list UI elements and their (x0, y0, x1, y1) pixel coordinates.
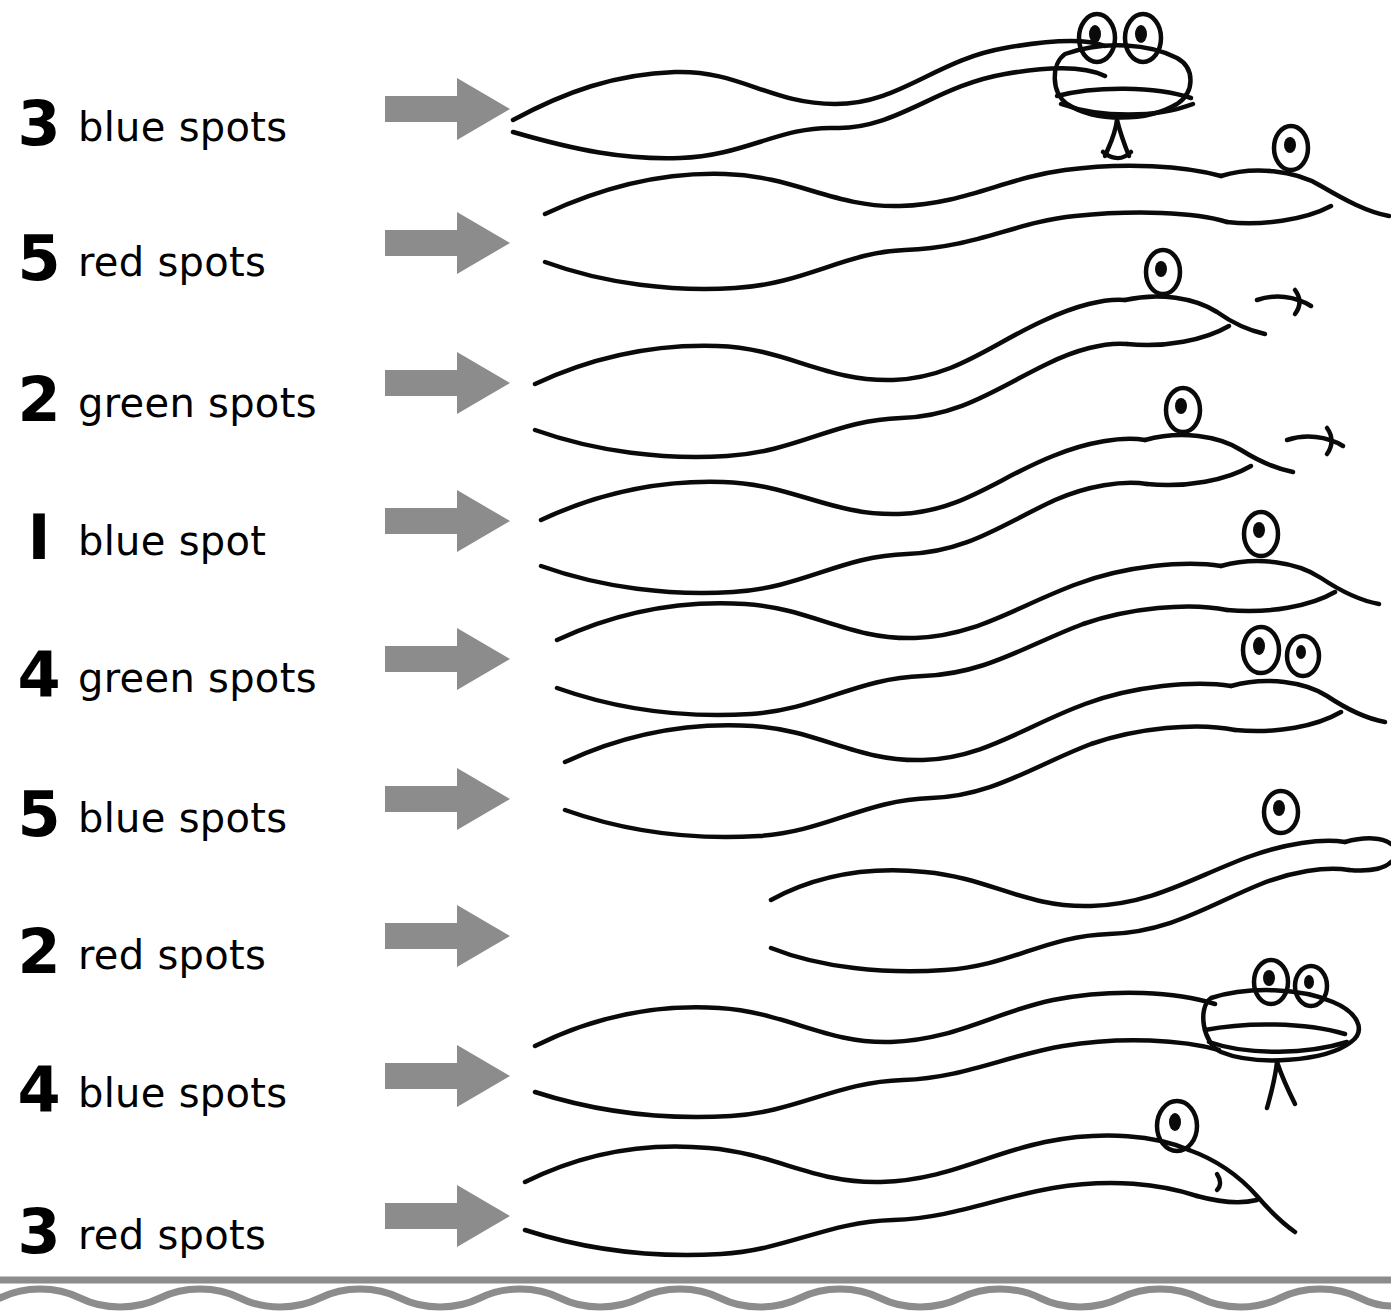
spot-color-label: red spots (78, 239, 266, 285)
spot-count-number: 5 (0, 228, 78, 296)
spot-count-number: 5 (0, 784, 78, 852)
right-arrow-icon (385, 768, 510, 830)
spot-count-number: 3 (0, 93, 78, 161)
right-arrow-icon (385, 212, 510, 274)
spot-color-label: blue spots (78, 1070, 287, 1116)
spot-count-number: 2 (0, 921, 78, 989)
snake-4 (541, 388, 1343, 593)
right-arrow-icon (385, 1045, 510, 1107)
spot-count-number: 4 (0, 644, 78, 712)
snake-drawing (505, 0, 1391, 1312)
spot-color-label: red spots (78, 932, 266, 978)
spot-color-label: green spots (78, 655, 317, 701)
right-arrow-icon (385, 905, 510, 967)
spot-color-label: blue spots (78, 104, 287, 150)
spot-color-label: blue spots (78, 795, 287, 841)
snake-7 (771, 791, 1391, 971)
snake-1 (513, 14, 1193, 158)
snake-8 (535, 960, 1359, 1117)
snake-9 (525, 1101, 1295, 1255)
spot-count-number: 2 (0, 369, 78, 437)
spot-color-label: red spots (78, 1212, 266, 1258)
right-arrow-icon (385, 78, 510, 140)
right-arrow-icon (385, 1185, 510, 1247)
spot-count-number: 3 (0, 1201, 78, 1269)
snake-6 (565, 627, 1385, 837)
right-arrow-icon (385, 628, 510, 690)
right-arrow-icon (385, 490, 510, 552)
spot-color-label: blue spot (78, 518, 266, 564)
worksheet-page: 3 blue spots 5 red spots 2 green spots I… (0, 0, 1391, 1312)
right-arrow-icon (385, 352, 510, 414)
wavy-line-divider (0, 1272, 1391, 1312)
spot-color-label: green spots (78, 380, 317, 426)
spot-count-number: 4 (0, 1059, 78, 1127)
snake-2 (545, 126, 1389, 289)
spot-count-number: I (0, 507, 78, 575)
